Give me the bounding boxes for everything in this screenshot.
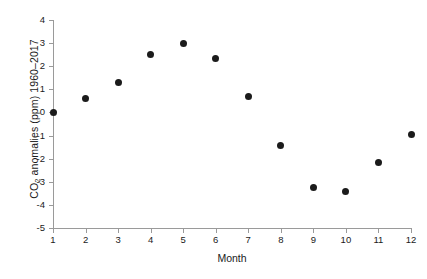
data-point bbox=[212, 55, 219, 62]
data-point bbox=[310, 184, 317, 191]
data-point bbox=[147, 51, 154, 58]
data-point bbox=[50, 109, 57, 116]
data-point bbox=[245, 93, 252, 100]
scatter-chart-figure: CO2 anomalies (ppm) 1960–2017 Month 4321… bbox=[0, 0, 427, 279]
data-point bbox=[82, 95, 89, 102]
data-point bbox=[342, 188, 349, 195]
data-point bbox=[115, 79, 122, 86]
data-point bbox=[408, 131, 415, 138]
data-point bbox=[375, 159, 382, 166]
data-point bbox=[277, 142, 284, 149]
data-points-layer bbox=[0, 0, 427, 279]
data-point bbox=[180, 40, 187, 47]
